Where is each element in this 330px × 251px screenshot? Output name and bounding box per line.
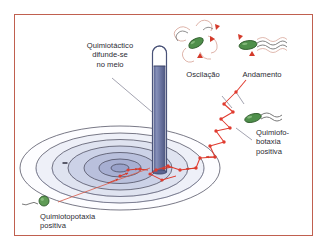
label-capillary-line1: Quimiotáctico <box>78 41 142 50</box>
leader-line-capillary <box>112 78 152 112</box>
label-phobotaxis: Quimiofo- botaxia positiva <box>256 128 320 156</box>
label-phobotaxis-line2: botaxia <box>256 137 320 146</box>
label-run: Andamento <box>234 70 290 79</box>
label-topotaxis-line2: positiva <box>40 221 126 230</box>
bacterium-tumbling <box>174 20 220 62</box>
capillary-tube <box>153 46 167 174</box>
label-capillary-line2: difunde-se <box>78 50 142 59</box>
chemotaxis-figure: Quimiotáctico difunde-se no meio Oscilaç… <box>0 0 330 251</box>
label-phobotaxis-line1: Quimiofo- <box>256 128 320 137</box>
label-oscillation: Oscilação <box>180 70 226 79</box>
label-capillary-line3: no meio <box>78 60 142 69</box>
bacterium-topotaxis <box>22 196 49 206</box>
label-topotaxis-line1: Quimiotopotaxia <box>40 212 126 221</box>
label-topotaxis: Quimiotopotaxia positiva <box>40 212 126 231</box>
diffusion-gradient-rings <box>20 126 220 210</box>
label-phobotaxis-line3: positiva <box>256 147 320 156</box>
bacterium-phobotaxis <box>244 112 282 124</box>
bacterium-running <box>238 34 287 56</box>
label-capillary: Quimiotáctico difunde-se no meio <box>78 41 142 69</box>
